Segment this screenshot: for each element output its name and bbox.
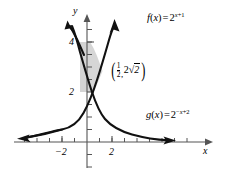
function-g-equals: = [164, 109, 170, 120]
point-y-radicand: 2 [134, 63, 140, 75]
x-tick-label-2: 2 [109, 147, 114, 157]
y-axis-label: y [73, 6, 77, 16]
x-axis-label: x [203, 146, 207, 156]
function-g-exponent: −x+2 [176, 108, 189, 115]
y-axis-arrowhead [84, 14, 91, 22]
function-f-paren-close: ) [158, 12, 162, 23]
curve-g-left-tail [26, 130, 62, 138]
function-f-exponent-rest: +1 [178, 11, 185, 18]
function-g-paren-close: ) [159, 109, 163, 120]
point-x-numerator: 1 [117, 62, 121, 70]
graph-canvas [0, 0, 230, 180]
x-tick-label-minus-2: −2 [55, 147, 67, 157]
point-y-radical: √2 [129, 65, 141, 75]
function-f-equals: = [163, 12, 169, 23]
exponential-functions-figure: y x 4 2 −2 2 f(x)=2x+1 g(x)=2−x+2 ( 1 2 … [0, 0, 230, 180]
function-g-exponent-rest: +2 [183, 108, 190, 115]
point-paren-open: ( [111, 62, 115, 78]
curve-f-arrowhead-upper [110, 19, 120, 34]
function-label-g: g(x)=2−x+2 [146, 110, 190, 121]
point-x-fraction: 1 2 [117, 62, 121, 79]
intersection-point-label: ( 1 2 , 2√2 ) [110, 62, 147, 79]
point-paren-close: ) [141, 62, 145, 78]
y-tick-label-2: 2 [69, 87, 74, 97]
function-f-exponent: x+1 [175, 11, 185, 18]
point-x-denominator: 2 [117, 70, 121, 79]
function-label-f: f(x)=2x+1 [147, 13, 185, 24]
curve-g-arrowhead-left [17, 135, 31, 143]
y-tick-label-4: 4 [69, 37, 74, 47]
point-y-value: 2√2 [124, 65, 141, 75]
